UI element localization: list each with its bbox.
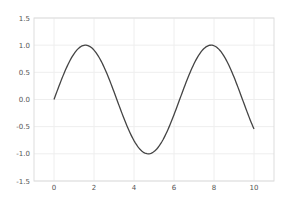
y-tick-label: 1.0 — [19, 42, 30, 50]
y-tick-label: 0.0 — [19, 96, 30, 104]
x-tick-label: 6 — [172, 184, 177, 192]
y-axis-ticks: 1.51.00.50.0-0.5-1.0-1.5 — [16, 15, 30, 186]
x-tick-label: 10 — [250, 184, 259, 192]
y-tick-label: 1.5 — [19, 15, 30, 23]
y-tick-label: -1.5 — [16, 178, 30, 186]
x-tick-label: 2 — [92, 184, 96, 192]
grid-lines — [34, 18, 274, 181]
y-tick-label: -0.5 — [16, 123, 30, 131]
x-tick-label: 0 — [52, 184, 56, 192]
x-axis-ticks: 0246810 — [52, 184, 259, 192]
sine-line-chart: 0246810 1.51.00.50.0-0.5-1.0-1.5 — [0, 0, 286, 201]
x-tick-label: 8 — [212, 184, 216, 192]
y-tick-label: -1.0 — [16, 150, 30, 158]
y-tick-label: 0.5 — [19, 69, 30, 77]
x-tick-label: 4 — [132, 184, 137, 192]
